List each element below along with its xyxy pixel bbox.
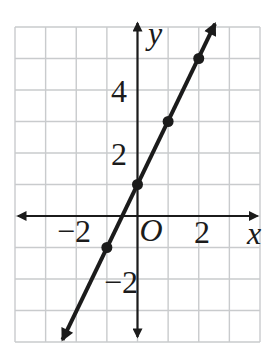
y-tick-label-2: 2	[111, 138, 127, 170]
origin-label: O	[139, 214, 162, 246]
x-tick-label-2: 2	[194, 216, 210, 248]
y-tick-label-neg2: −2	[104, 266, 138, 298]
x-tick-label-neg2: −2	[57, 215, 91, 247]
line-graph-figure: y x O 4 2 −2 −2 2	[0, 0, 274, 352]
y-tick-label-4: 4	[111, 75, 127, 107]
y-axis-label: y	[148, 17, 162, 49]
x-axis-label: x	[247, 217, 261, 249]
